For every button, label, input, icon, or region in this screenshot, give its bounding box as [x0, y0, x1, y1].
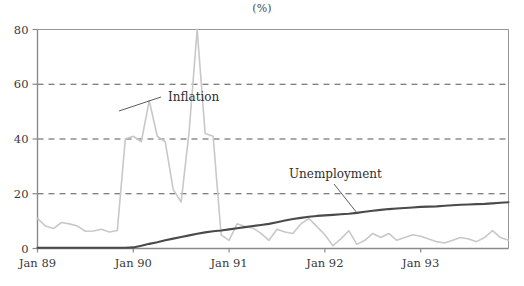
x-tick-label-2: Jan 91 — [210, 256, 248, 270]
chart-container: (%) 020406080 Jan 89Jan 90Jan 91Jan 92Ja… — [0, 0, 524, 286]
x-tick-label-1: Jan 90 — [114, 256, 152, 270]
series-line-unemployment — [38, 202, 509, 247]
x-tick-label-3: Jan 92 — [305, 256, 343, 270]
y-tick-label-60: 60 — [14, 77, 29, 91]
y-tick-label-80: 80 — [14, 23, 29, 37]
series-label-unemployment: Unemployment — [289, 167, 382, 181]
annotation-leader-line-unemployment — [334, 184, 357, 213]
x-axis-ticks: Jan 89Jan 90Jan 91Jan 92Jan 93 — [18, 249, 439, 270]
series-label-inflation: Inflation — [168, 90, 220, 104]
gridlines-group — [38, 84, 509, 194]
y-tick-label-40: 40 — [14, 132, 29, 146]
y-tick-label-0: 0 — [21, 242, 28, 256]
x-tick-label-4: Jan 93 — [401, 256, 439, 270]
y-tick-label-20: 20 — [14, 187, 29, 201]
chart-plot: 020406080 Jan 89Jan 90Jan 91Jan 92Jan 93… — [0, 0, 524, 286]
y-axis-ticks: 020406080 — [14, 23, 38, 256]
annotation-leader-line-inflation — [119, 97, 161, 111]
series-line-inflation — [38, 30, 509, 246]
x-tick-label-0: Jan 89 — [18, 256, 56, 270]
series-annotations-group: InflationUnemployment — [119, 90, 382, 213]
